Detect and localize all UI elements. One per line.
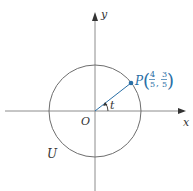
y-axis [92,12,98,191]
point-P-label: P ( 4 5 , 3 5 ) [134,70,174,91]
left-paren: ( [143,70,150,91]
x-denominator: 5 [150,80,155,89]
point-P [129,81,134,86]
x-axis-arrow-icon [178,108,186,114]
right-paren: ) [167,70,174,91]
comma: , [156,78,159,88]
angle-label: t [110,99,115,112]
unit-circle-diagram: y x O t U P ( 4 5 , 3 5 ) [0,0,193,191]
origin-label: O [81,115,90,128]
x-numerator: 4 [150,70,155,79]
y-axis-arrow-icon [92,12,98,21]
x-axis-label: x [183,116,190,129]
circle-label: U [47,147,58,161]
y-axis-label: y [100,8,108,21]
